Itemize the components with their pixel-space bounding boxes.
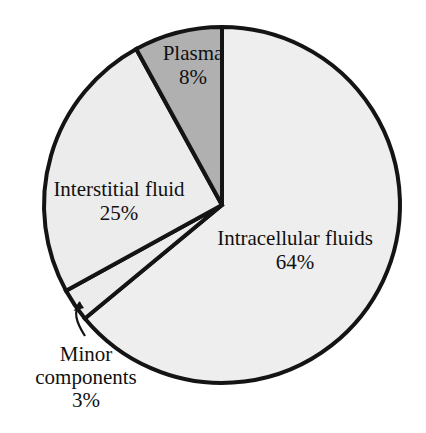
slice-label-minor-components-value: 3% <box>6 389 166 413</box>
slice-label-minor-components: Minor components 3% <box>6 343 166 413</box>
pie-chart: Plasma 8% Interstitial fluid 25% Intrace… <box>0 0 426 433</box>
slice-label-intracellular-fluids-name: Intracellular fluids <box>195 227 395 251</box>
slice-label-interstitial-fluid-value: 25% <box>24 202 214 226</box>
slice-label-interstitial-fluid: Interstitial fluid 25% <box>24 178 214 225</box>
slice-label-minor-components-name-line2: components <box>6 366 166 389</box>
slice-label-intracellular-fluids-value: 64% <box>195 251 395 275</box>
slice-label-plasma: Plasma 8% <box>139 42 247 89</box>
slice-label-plasma-name: Plasma <box>139 42 247 66</box>
slice-label-interstitial-fluid-name: Interstitial fluid <box>24 178 214 202</box>
slice-label-plasma-value: 8% <box>139 66 247 90</box>
slice-label-intracellular-fluids: Intracellular fluids 64% <box>195 227 395 274</box>
slice-label-minor-components-name-line1: Minor <box>6 343 166 366</box>
